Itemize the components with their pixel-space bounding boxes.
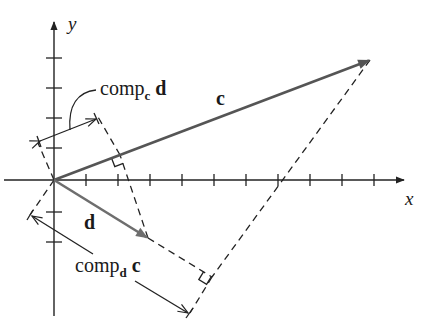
- d-extension: [148, 238, 212, 277]
- comp-c-d-label: compcd: [100, 77, 166, 103]
- vector-projection-diagram: y x c d compcd: [0, 0, 427, 331]
- right-angle-on-c: [112, 158, 124, 166]
- vector-d: [54, 180, 147, 238]
- comp-c-d-right-guide: [98, 117, 120, 155]
- comp-d-c-right-guide: [190, 277, 212, 313]
- comp-d-c-right-arrow: [135, 281, 188, 313]
- perp-d-to-c: [120, 155, 148, 238]
- vector-c-label: c: [216, 87, 225, 109]
- x-axis-label: x: [404, 188, 414, 209]
- axes: y x: [4, 13, 414, 316]
- perp-c-to-d: [212, 60, 370, 277]
- y-axis-label: y: [66, 13, 77, 34]
- vector-d-label: d: [84, 211, 95, 233]
- comp-d-c-label: compdc: [75, 254, 141, 280]
- end-bar-left: [27, 210, 33, 220]
- comp-d-c-left-guide: [30, 180, 54, 215]
